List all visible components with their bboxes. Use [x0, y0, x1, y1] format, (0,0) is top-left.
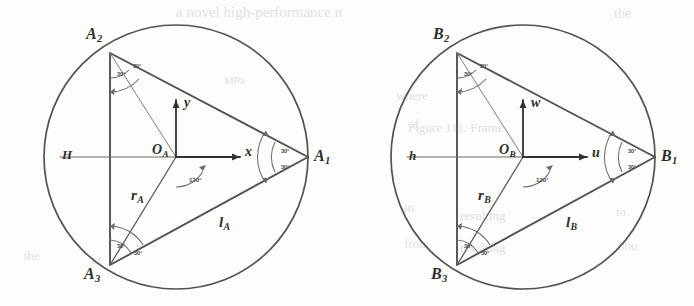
- axis-arrowheads: [173, 100, 240, 160]
- vertex-label-B3: B3: [431, 266, 447, 285]
- panel-b-vector-graphics: [347, 0, 694, 306]
- axis-label-x-axis: x: [245, 145, 252, 159]
- angle-label-A3-3: 30°: [134, 250, 142, 256]
- angle-label-OA-6: 120°: [189, 176, 201, 183]
- angle-label-A1-4: 30°: [281, 148, 289, 154]
- side-label-lB: lB: [566, 215, 577, 232]
- radius-label-rA: rA: [131, 188, 144, 205]
- x-axis-arrowhead: [232, 154, 240, 161]
- vertex-label-A2: A2: [86, 26, 102, 45]
- datum-label-h: h: [409, 149, 416, 162]
- angle-label-B1-4: 30°: [628, 148, 636, 154]
- axis-arrowheads: [520, 100, 587, 160]
- origin-label-OB: OB: [499, 143, 516, 159]
- angle-label-B2-1: 30°: [480, 63, 488, 69]
- vertex-label-B1: B1: [661, 148, 677, 167]
- angle-arc-b1-inner: [619, 142, 622, 172]
- panel-a-vector-graphics: [0, 0, 347, 306]
- axis-label-y-axis: y: [184, 96, 190, 110]
- angle-label-A2-1: 30°: [133, 63, 141, 69]
- angle-arc-a3-outer: [110, 226, 143, 245]
- u-axis-arrowhead: [579, 154, 587, 161]
- axis-label-u-axis: u: [592, 146, 600, 160]
- angle-label-OB-6: 120°: [536, 176, 548, 183]
- angle-label-B2-0: 30°: [464, 71, 472, 77]
- angle-arc-a1-outer: [257, 131, 266, 183]
- w-axis-arrowhead: [520, 100, 527, 108]
- chord-line: [110, 53, 176, 157]
- origin-label-OA: OA: [152, 143, 169, 159]
- vertex-label-A1: A1: [314, 148, 330, 167]
- inscribed-triangle: [110, 53, 308, 265]
- radius-label-rB: rB: [478, 188, 491, 205]
- vertex-label-A3: A3: [84, 266, 100, 285]
- diagram-panel-b: B1B2B3OBuwhrBlB30°30°30°30°30°30°120°: [347, 0, 694, 306]
- vertex-label-B2: B2: [433, 26, 449, 45]
- y-axis-arrowhead: [173, 100, 180, 108]
- datum-label-H: H: [62, 148, 72, 161]
- axis-label-w-axis: w: [531, 96, 540, 110]
- side-label-lA: lA: [219, 215, 230, 232]
- angle-arc-b1-outer: [604, 131, 613, 183]
- inscribed-triangle: [457, 53, 655, 265]
- angle-label-A3-2: 30°: [117, 243, 125, 249]
- angle-label-A2-0: 30°: [117, 71, 125, 77]
- angle-arc-b3-outer: [457, 226, 490, 245]
- arc-tip-120: [546, 165, 553, 171]
- angle-label-B3-3: 30°: [481, 250, 489, 256]
- angle-label-B3-2: 30°: [464, 243, 472, 249]
- diagram-panel-a: A1A2A3OAxyHrAlA30°30°30°30°30°30°120°: [0, 0, 347, 306]
- chord-line: [457, 53, 523, 157]
- angle-label-B1-5: 30°: [628, 164, 636, 170]
- angle-label-A1-5: 30°: [281, 164, 289, 170]
- arc-tip-120: [199, 165, 206, 171]
- angle-arc-a1-inner: [272, 142, 275, 172]
